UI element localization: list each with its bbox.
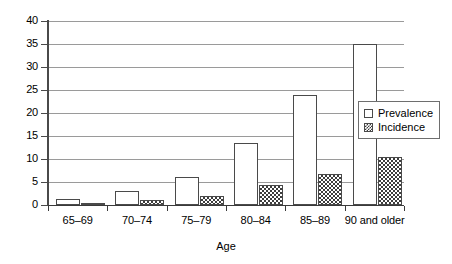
y-tick-label: 40 — [8, 15, 38, 26]
legend-label-incidence: Incidence — [378, 121, 425, 133]
y-tick-label: 35 — [8, 38, 38, 49]
x-axis-title: Age — [0, 240, 452, 252]
legend-swatch-incidence-icon — [364, 123, 373, 132]
y-axis-line — [47, 20, 49, 206]
bar-group — [167, 21, 226, 205]
y-tick-label: 10 — [8, 153, 38, 164]
y-tick-label: 0 — [8, 199, 38, 210]
x-tick-label: 80–84 — [226, 214, 285, 226]
legend-item-incidence: Incidence — [364, 120, 433, 134]
bar-group — [285, 21, 344, 205]
bar-prevalence — [293, 95, 317, 205]
y-tick-label: 5 — [8, 176, 38, 187]
x-tick-label: 85–89 — [285, 214, 344, 226]
bar-group — [107, 21, 166, 205]
bar-group — [48, 21, 107, 205]
y-tick-label: 15 — [8, 130, 38, 141]
x-tick-mark — [107, 206, 108, 211]
x-tick-mark — [285, 206, 286, 211]
bar-chart: 0510152025303540 65–6970–7475–7980–8485–… — [0, 0, 452, 264]
x-tick-mark — [226, 206, 227, 211]
x-tick-label: 65–69 — [48, 214, 107, 226]
bar-prevalence — [115, 191, 139, 205]
bar-prevalence — [234, 143, 258, 205]
y-tick-label: 30 — [8, 61, 38, 72]
legend-item-prevalence: Prevalence — [364, 106, 433, 120]
x-tick-label: 70–74 — [107, 214, 166, 226]
x-tick-mark — [345, 206, 346, 211]
x-tick-mark — [167, 206, 168, 211]
x-tick-label: 90 and older — [345, 214, 404, 226]
y-tick-label: 20 — [8, 107, 38, 118]
legend-label-prevalence: Prevalence — [378, 107, 433, 119]
legend-swatch-prevalence-icon — [364, 109, 373, 118]
bar-incidence — [259, 185, 283, 205]
bar-incidence — [200, 196, 224, 205]
bar-group — [226, 21, 285, 205]
bar-prevalence — [175, 177, 199, 205]
plot-area — [48, 21, 404, 205]
chart-legend: Prevalence Incidence — [358, 101, 440, 139]
x-tick-mark — [404, 206, 405, 211]
x-tick-label: 75–79 — [167, 214, 226, 226]
bar-incidence — [318, 174, 342, 205]
x-tick-mark — [48, 206, 49, 211]
y-tick-label: 25 — [8, 84, 38, 95]
bar-incidence — [378, 157, 402, 205]
